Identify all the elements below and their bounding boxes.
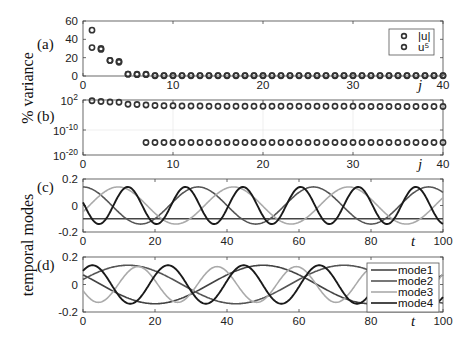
data-point (89, 45, 94, 50)
data-point (89, 98, 94, 103)
data-point (296, 140, 301, 145)
data-point (188, 140, 193, 145)
y-tick-label: 60 (65, 15, 78, 27)
panel-b-variance-log: 010203040j10-2010-10102 (53, 92, 449, 172)
x-tick-label: 0 (80, 158, 86, 170)
y-tick-label: -0.2 (58, 226, 78, 238)
data-point (143, 140, 148, 145)
panel-c-temporal-modes: 020406080100t-0.200.2 (58, 173, 452, 249)
data-point (242, 140, 247, 145)
data-point (314, 104, 319, 109)
data-point (368, 140, 373, 145)
data-point (332, 104, 337, 109)
y-tick-label: 10-20 (53, 147, 78, 162)
panel-d-temporal-modes: 020406080100t-0.200.2mode1mode2mode3mode… (58, 251, 452, 329)
data-point (89, 28, 94, 33)
legend-entry: mode4 (398, 297, 434, 309)
x-tick-label: 60 (293, 235, 306, 247)
ylabel-temporal-modes: temporal modes (19, 194, 37, 297)
data-point (323, 140, 328, 145)
data-point (278, 140, 283, 145)
panel-label-b: (b) (37, 108, 55, 125)
data-point (377, 140, 382, 145)
y-tick-label: 10-10 (53, 122, 78, 137)
x-axis-label: j (416, 156, 422, 172)
x-tick-label: 40 (437, 79, 450, 91)
x-tick-label: 20 (257, 79, 270, 91)
data-point (125, 72, 130, 77)
data-point (386, 104, 391, 109)
panel-label-d: (d) (37, 257, 55, 274)
data-point (116, 60, 121, 65)
x-axis-label: t (411, 233, 416, 249)
data-point (251, 104, 256, 109)
data-point (377, 104, 382, 109)
data-point (404, 104, 409, 109)
x-tick-label: 80 (365, 235, 378, 247)
data-point (179, 103, 184, 108)
data-point (206, 104, 211, 109)
data-point (125, 102, 130, 107)
y-tick-label: 0 (72, 70, 78, 82)
x-tick-label: 0 (80, 315, 86, 327)
data-point (314, 140, 319, 145)
data-point (287, 140, 292, 145)
x-tick-label: 100 (433, 235, 452, 247)
data-point (233, 104, 238, 109)
data-point (197, 103, 202, 108)
data-point (422, 140, 427, 145)
data-point (395, 104, 400, 109)
data-point (179, 140, 184, 145)
data-point (404, 140, 409, 145)
data-point (332, 140, 337, 145)
panel-label-c: (c) (37, 179, 54, 196)
panel-a-variance-linear: 010203040j0204060|u|u⁵ (65, 15, 449, 93)
data-point (233, 140, 238, 145)
data-point (134, 102, 139, 107)
data-point (341, 104, 346, 109)
data-point (251, 140, 256, 145)
data-point (269, 140, 274, 145)
data-point (206, 140, 211, 145)
data-point (242, 104, 247, 109)
x-tick-label: 10 (167, 79, 180, 91)
data-point (116, 100, 121, 105)
data-point (431, 140, 436, 145)
data-point (287, 104, 292, 109)
data-point (413, 104, 418, 109)
data-point (215, 104, 220, 109)
data-point (296, 104, 301, 109)
data-point (197, 140, 202, 145)
data-point (323, 104, 328, 109)
ylabel-variance: % variance (19, 52, 36, 124)
y-tick-label: 0.2 (62, 173, 78, 185)
data-point (98, 99, 103, 104)
data-point (98, 47, 103, 52)
y-tick-label: 102 (60, 92, 78, 107)
y-tick-label: 0 (72, 200, 78, 212)
data-point (107, 58, 112, 63)
data-point (269, 104, 274, 109)
data-point (152, 140, 157, 145)
x-tick-label: 30 (347, 158, 360, 170)
y-tick-label: 40 (65, 33, 78, 45)
x-axis-label: j (416, 77, 422, 93)
data-point (359, 140, 364, 145)
x-tick-label: 0 (80, 235, 86, 247)
data-point (152, 103, 157, 108)
data-point (359, 104, 364, 109)
legend-entry: u⁵ (418, 41, 429, 53)
data-point (134, 72, 139, 77)
data-point (341, 140, 346, 145)
data-point (395, 140, 400, 145)
x-tick-label: 40 (437, 158, 450, 170)
data-point (107, 99, 112, 104)
data-point (215, 140, 220, 145)
y-tick-label: 0 (72, 279, 78, 291)
data-point (161, 140, 166, 145)
data-point (431, 104, 436, 109)
data-point (305, 104, 310, 109)
figure: % variance temporal modes (a) (b) (c) (d… (0, 0, 470, 344)
data-point (386, 140, 391, 145)
data-point (188, 103, 193, 108)
